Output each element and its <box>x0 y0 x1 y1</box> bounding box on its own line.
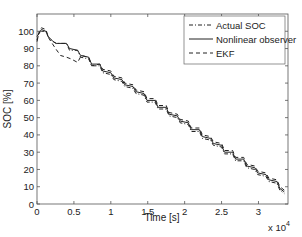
y-tick-label: 40 <box>23 129 34 140</box>
y-tick-label: 80 <box>23 60 34 71</box>
y-tick-label: 70 <box>23 78 34 89</box>
x-tick-label: 0 <box>34 206 39 217</box>
y-tick-label: 10 <box>23 181 34 192</box>
y-tick-label: 30 <box>23 147 34 158</box>
svg-text:Nonlinear observer: Nonlinear observer <box>216 34 296 45</box>
x-tick-label: 1 <box>108 206 113 217</box>
x-tick-label: 0.5 <box>67 206 80 217</box>
y-tick-label: 50 <box>23 112 34 123</box>
y-axis-label: SOC [%] <box>2 89 13 128</box>
x-tick-label: 2 <box>182 206 187 217</box>
x-tick-label: 3 <box>256 206 261 217</box>
x-multiplier: x 104 <box>268 220 290 233</box>
svg-text:Actual SOC: Actual SOC <box>216 20 266 31</box>
legend: Actual SOC Nonlinear observer EKF <box>184 16 296 64</box>
soc-chart: 00.511.522.530102030405060708090100 Time… <box>0 0 302 237</box>
y-tick-label: 0 <box>29 199 34 210</box>
y-tick-label: 90 <box>23 43 34 54</box>
x-tick-label: 2.5 <box>215 206 228 217</box>
svg-text:EKF: EKF <box>216 48 235 59</box>
x-axis-label: Time [s] <box>144 212 179 223</box>
y-tick-label: 20 <box>23 164 34 175</box>
y-tick-label: 60 <box>23 95 34 106</box>
y-tick-label: 100 <box>18 26 34 37</box>
